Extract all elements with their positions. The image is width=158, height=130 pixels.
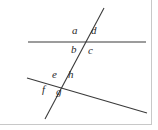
figure-border-right: [151, 0, 152, 125]
angle-label-a: a: [72, 25, 78, 36]
angle-label-c: c: [88, 45, 93, 56]
geometry-figure: a d b c e h f g: [0, 0, 158, 130]
angle-label-g: g: [56, 86, 62, 97]
angle-label-b: b: [71, 44, 77, 55]
figure-canvas: [0, 0, 158, 130]
angle-label-d: d: [91, 25, 97, 36]
angle-label-f: f: [42, 84, 45, 95]
figure-border-bottom: [0, 124, 152, 125]
angle-label-e: e: [52, 69, 57, 80]
angle-label-h: h: [68, 69, 74, 80]
